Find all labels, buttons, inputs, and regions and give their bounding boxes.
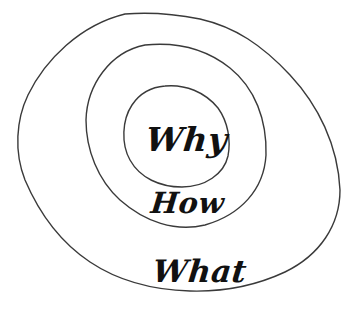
what-label: What (151, 253, 249, 289)
how-label: How (149, 186, 226, 220)
why-label: Why (144, 120, 230, 159)
golden-circle-diagram: Why How What (0, 0, 353, 309)
